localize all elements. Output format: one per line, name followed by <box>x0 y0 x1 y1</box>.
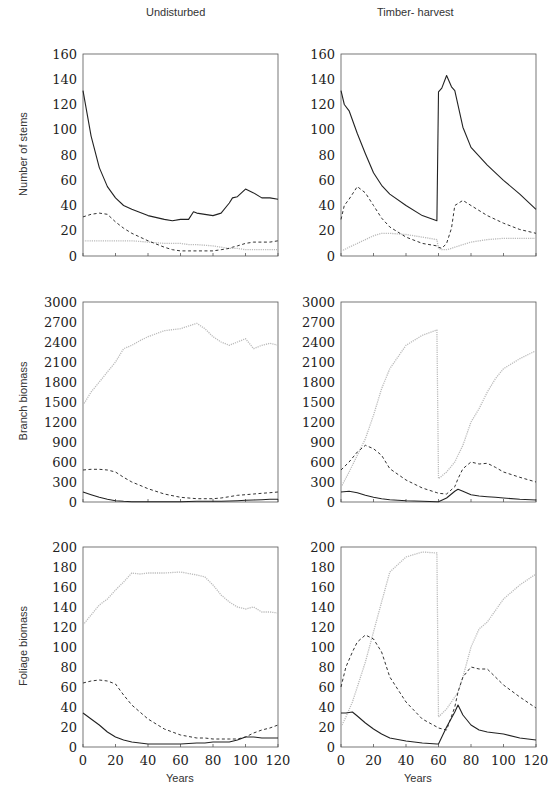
y-tick-label: 40 <box>318 198 335 213</box>
y-tick-label: 120 <box>310 97 335 112</box>
y-tick-label: 80 <box>60 148 77 163</box>
y-tick-label: 20 <box>60 720 77 735</box>
y-tick-label: 2400 <box>302 335 335 350</box>
y-tick-label: 120 <box>52 97 77 112</box>
plot-frame <box>83 54 278 256</box>
y-tick-label: 200 <box>310 540 335 555</box>
series-dashed <box>83 680 278 739</box>
y-tick-label: 120 <box>310 620 335 635</box>
y-tick-label: 80 <box>318 660 335 675</box>
x-tick-label: 0 <box>79 753 87 768</box>
plot-frame <box>83 302 278 502</box>
y-tick-label: 2100 <box>302 355 335 370</box>
y-tick-label: 20 <box>318 223 335 238</box>
y-tick-label: 100 <box>52 640 77 655</box>
plot-frame <box>341 302 536 502</box>
y-tick-label: 2700 <box>302 315 335 330</box>
series-dashed <box>341 187 536 249</box>
series-solid <box>341 76 536 221</box>
series-dotted <box>83 572 278 625</box>
series-dotted <box>83 323 278 405</box>
y-tick-label: 0 <box>69 740 77 755</box>
series-dotted <box>341 233 536 251</box>
y-tick-label: 160 <box>52 47 77 62</box>
y-tick-label: 120 <box>52 620 77 635</box>
y-tick-label: 60 <box>60 173 77 188</box>
x-tick-label: 20 <box>365 753 382 768</box>
y-tick-label: 140 <box>310 72 335 87</box>
x-tick-label: 0 <box>337 753 345 768</box>
plot-frame <box>83 547 278 747</box>
y-tick-label: 140 <box>310 600 335 615</box>
x-tick-label: 120 <box>524 753 549 768</box>
chart-panel-0: 020406080100120140160 <box>52 47 278 264</box>
y-tick-label: 1500 <box>302 395 335 410</box>
chart-grid: 0204060801001201401600204060801001201401… <box>0 0 555 799</box>
series-dotted <box>341 330 536 487</box>
y-tick-label: 900 <box>52 435 77 450</box>
y-tick-label: 160 <box>52 580 77 595</box>
y-tick-label: 40 <box>60 700 77 715</box>
chart-panel-4: 0204060801001201401601802000204060801001… <box>52 540 290 769</box>
y-tick-label: 160 <box>310 580 335 595</box>
y-tick-label: 0 <box>327 249 335 264</box>
y-tick-label: 160 <box>310 47 335 62</box>
series-solid <box>83 91 278 221</box>
y-tick-label: 1800 <box>302 375 335 390</box>
x-tick-label: 100 <box>233 753 258 768</box>
y-tick-label: 2100 <box>44 355 77 370</box>
chart-panel-3: 03006009001200150018002100240027003000 <box>302 295 536 510</box>
chart-panel-1: 020406080100120140160 <box>310 47 536 264</box>
series-dashed <box>83 213 278 251</box>
y-tick-label: 140 <box>52 72 77 87</box>
y-tick-label: 0 <box>69 495 77 510</box>
y-tick-label: 60 <box>318 680 335 695</box>
chart-panel-5: 0204060801001201401601802000204060801001… <box>310 540 548 769</box>
y-tick-label: 80 <box>60 660 77 675</box>
y-tick-label: 140 <box>52 600 77 615</box>
y-tick-label: 180 <box>52 560 77 575</box>
y-tick-label: 1800 <box>44 375 77 390</box>
plot-frame <box>341 547 536 747</box>
y-tick-label: 80 <box>318 148 335 163</box>
y-tick-label: 2700 <box>44 315 77 330</box>
y-tick-label: 1200 <box>44 415 77 430</box>
y-tick-label: 3000 <box>44 295 77 310</box>
y-tick-label: 0 <box>69 249 77 264</box>
series-dashed <box>341 445 536 494</box>
y-tick-label: 300 <box>52 475 77 490</box>
series-dotted <box>83 241 278 250</box>
x-tick-label: 80 <box>463 753 480 768</box>
y-tick-label: 200 <box>52 540 77 555</box>
x-tick-label: 40 <box>398 753 415 768</box>
series-dashed <box>83 469 278 498</box>
y-tick-label: 600 <box>310 455 335 470</box>
y-tick-label: 180 <box>310 560 335 575</box>
y-tick-label: 100 <box>310 640 335 655</box>
y-tick-label: 300 <box>310 475 335 490</box>
plot-frame <box>341 54 536 256</box>
y-tick-label: 100 <box>52 122 77 137</box>
x-tick-label: 60 <box>172 753 189 768</box>
x-tick-label: 40 <box>140 753 157 768</box>
y-tick-label: 60 <box>318 173 335 188</box>
y-tick-label: 20 <box>318 720 335 735</box>
x-tick-label: 120 <box>266 753 291 768</box>
y-tick-label: 1500 <box>44 395 77 410</box>
y-tick-label: 3000 <box>302 295 335 310</box>
y-tick-label: 900 <box>310 435 335 450</box>
series-solid <box>83 713 278 744</box>
y-tick-label: 100 <box>310 122 335 137</box>
y-tick-label: 600 <box>52 455 77 470</box>
y-tick-label: 0 <box>327 495 335 510</box>
y-tick-label: 40 <box>318 700 335 715</box>
y-tick-label: 40 <box>60 198 77 213</box>
x-tick-label: 80 <box>205 753 222 768</box>
y-tick-label: 20 <box>60 223 77 238</box>
x-tick-label: 100 <box>491 753 516 768</box>
chart-panel-2: 03006009001200150018002100240027003000 <box>44 295 278 510</box>
series-dotted <box>341 552 536 727</box>
y-tick-label: 1200 <box>302 415 335 430</box>
y-tick-label: 2400 <box>44 335 77 350</box>
x-tick-label: 60 <box>430 753 447 768</box>
